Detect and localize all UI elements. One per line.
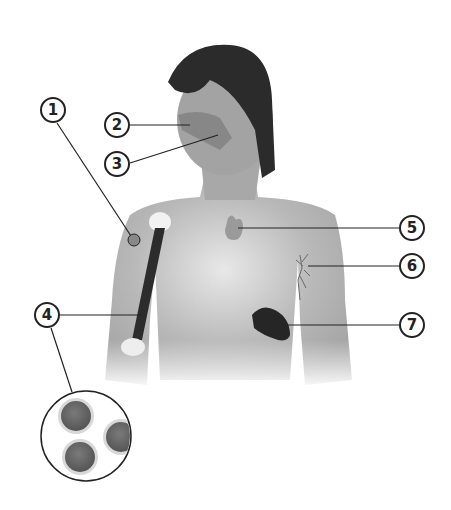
- callout-1: 1: [40, 97, 66, 123]
- callout-3: 3: [104, 151, 130, 177]
- diagram-stage: 1 2 3 4 5 6 7: [0, 0, 451, 510]
- bone-marrow-magnifier: [41, 391, 139, 481]
- callout-5: 5: [399, 215, 425, 241]
- callout-2: 2: [104, 112, 130, 138]
- callout-7: 7: [399, 312, 425, 338]
- lymph-node: [128, 234, 140, 246]
- torso: [100, 175, 360, 390]
- head: [168, 45, 275, 200]
- callout-6: 6: [399, 253, 425, 279]
- callout-4: 4: [34, 302, 60, 328]
- body-illustration: [0, 0, 451, 510]
